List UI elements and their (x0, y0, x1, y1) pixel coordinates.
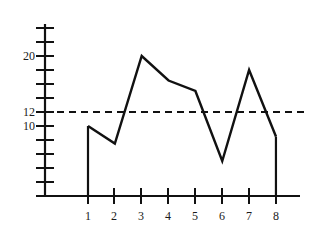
x-tick-label-5: 5 (185, 210, 205, 222)
y-tick-label-12: 12 (13, 106, 35, 118)
x-tick-label-1: 1 (78, 210, 98, 222)
series-line-1 (88, 56, 276, 161)
line-chart-canvas (0, 0, 318, 236)
x-tick-label-3: 3 (131, 210, 151, 222)
y-tick-label-10: 10 (13, 120, 35, 132)
x-tick-label-7: 7 (239, 210, 259, 222)
x-tick-label-2: 2 (104, 210, 124, 222)
y-tick-label-20: 20 (13, 50, 35, 62)
x-tick-label-6: 6 (212, 210, 232, 222)
x-tick-label-4: 4 (158, 210, 178, 222)
x-tick-label-8: 8 (266, 210, 286, 222)
chart-figure: 20 12 10 1 2 3 4 5 6 7 8 (0, 0, 318, 236)
